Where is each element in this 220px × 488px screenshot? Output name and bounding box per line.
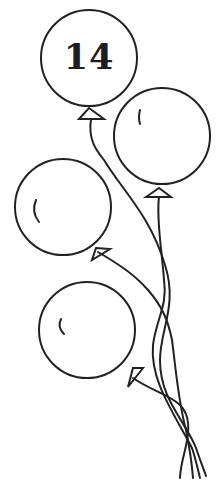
balloon-bottom <box>39 282 135 378</box>
cropped-caption <box>50 482 220 488</box>
balloon-right-knot <box>146 188 171 197</box>
string-middle <box>98 252 193 478</box>
balloon-top-knot <box>79 108 104 119</box>
string-right <box>153 197 200 478</box>
balloon-middle <box>15 159 111 255</box>
balloon-bottom-knot <box>128 368 143 387</box>
balloon-right <box>114 88 210 184</box>
balloon-number: 14 <box>44 36 134 77</box>
